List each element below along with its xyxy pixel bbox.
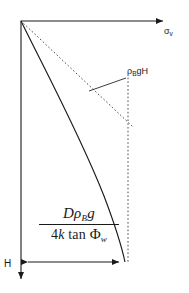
- sigma-v-axis-label: σv: [164, 27, 173, 38]
- hydrostatic-line: [21, 21, 132, 126]
- figure-canvas: σv ρBgH H DρBg 44kk tan Φw: [0, 0, 189, 293]
- formula-D: D: [63, 205, 74, 221]
- asymptotic-stress-formula: DρBg 44kk tan Φw: [39, 206, 119, 244]
- formula-tan: tan: [68, 227, 86, 242]
- diagram-svg: [0, 0, 189, 293]
- formula-numerator: DρBg: [39, 206, 119, 224]
- hydrostatic-label-leader: [89, 78, 126, 91]
- gh-text: gH: [136, 66, 148, 76]
- fraction-bar: [39, 224, 119, 225]
- formula-phi-subscript: w: [101, 234, 107, 244]
- hydrostatic-stress-label: ρBgH: [127, 67, 148, 78]
- formula-4k: 44kk: [51, 227, 65, 242]
- sigma-subscript: v: [170, 30, 173, 37]
- formula-denominator: 44kk tan Φw: [39, 226, 119, 244]
- formula-rho: ρ: [74, 205, 81, 221]
- formula-g: g: [87, 205, 95, 221]
- formula-phi: Φ: [90, 226, 101, 242]
- depth-label-text: H: [4, 258, 11, 269]
- depth-label: H: [4, 259, 11, 269]
